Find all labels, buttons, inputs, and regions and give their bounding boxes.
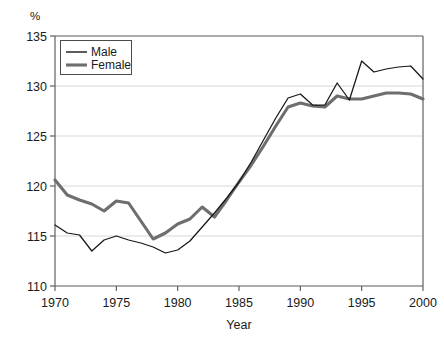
- x-tick-label-1980: 1980: [164, 296, 192, 310]
- line-chart: 110115120125130135 197019751980198519901…: [0, 0, 444, 345]
- chart-container: 110115120125130135 197019751980198519901…: [0, 0, 444, 345]
- y-tick-label-120: 120: [26, 180, 47, 194]
- y-axis-unit-label: %: [30, 10, 40, 22]
- y-tick-label-125: 125: [26, 130, 47, 144]
- y-tick-label-135: 135: [26, 30, 47, 44]
- x-tick-label-1985: 1985: [225, 296, 253, 310]
- legend: Male Female: [61, 41, 132, 75]
- y-tick-label-110: 110: [27, 280, 47, 294]
- y-axis-ticks: 110115120125130135: [26, 30, 55, 294]
- x-tick-label-1970: 1970: [41, 296, 69, 310]
- x-tick-label-2000: 2000: [409, 296, 437, 310]
- series-line-male: [55, 61, 423, 253]
- y-tick-label-115: 115: [27, 230, 47, 244]
- legend-label-female: Female: [91, 58, 131, 72]
- series-line-female: [55, 93, 423, 239]
- x-tick-label-1995: 1995: [348, 296, 376, 310]
- y-tick-label-130: 130: [26, 80, 47, 94]
- x-tick-label-1975: 1975: [102, 296, 130, 310]
- gridlines: [55, 86, 423, 236]
- x-axis-title: Year: [226, 318, 251, 332]
- x-axis-ticks: 1970197519801985199019952000: [41, 286, 437, 310]
- x-tick-label-1990: 1990: [286, 296, 314, 310]
- legend-label-male: Male: [91, 45, 117, 59]
